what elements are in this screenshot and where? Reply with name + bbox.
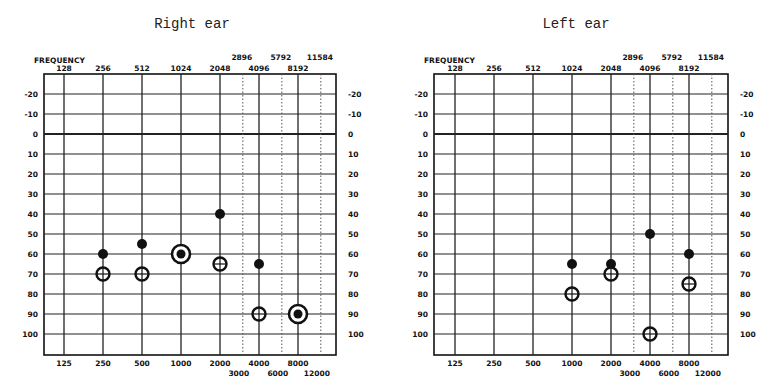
data-markers	[566, 229, 696, 341]
bottom-tick-label: 12000	[304, 369, 330, 378]
y-tick-label-right: 90	[348, 310, 358, 319]
y-tick-label-left: -10	[414, 110, 428, 119]
left-ear-panel: Left ear FREQUENCY2896579211584128256512…	[384, 0, 768, 392]
bottom-tick-label: 4000	[640, 359, 661, 368]
y-tick-label-right: 30	[740, 190, 750, 199]
top-tick-label: 5792	[661, 53, 682, 62]
y-tick-label-left: 70	[28, 270, 38, 279]
y-tick-label-left: 40	[28, 210, 38, 219]
y-tick-label-left: -10	[24, 110, 38, 119]
axis-labels: FREQUENCY2896579211584128256512102420484…	[22, 53, 363, 378]
bottom-tick-label: 8000	[679, 359, 700, 368]
y-tick-label-right: 0	[348, 130, 353, 139]
top-tick-label: 11584	[698, 53, 724, 62]
top-tick-label: 2896	[231, 53, 252, 62]
top-tick-label: 4096	[640, 64, 661, 73]
bottom-tick-label: 6000	[267, 369, 288, 378]
y-tick-label-right: 70	[740, 270, 750, 279]
combined-dot-marker	[294, 310, 303, 319]
y-tick-label-right: 30	[348, 190, 358, 199]
y-tick-label-left: 80	[418, 290, 428, 299]
top-tick-label: 5792	[270, 53, 291, 62]
y-tick-label-right: 50	[348, 230, 358, 239]
top-tick-label: 11584	[307, 53, 333, 62]
y-tick-label-left: 20	[418, 170, 428, 179]
y-tick-label-left: 0	[423, 130, 428, 139]
top-tick-label: 8192	[679, 64, 700, 73]
bottom-tick-label: 12000	[695, 369, 721, 378]
y-tick-label-left: 70	[418, 270, 428, 279]
y-tick-label-left: 40	[418, 210, 428, 219]
right-ear-panel: Right ear FREQUENCY289657921158412825651…	[0, 0, 384, 392]
bottom-tick-label: 8000	[288, 359, 309, 368]
y-tick-label-left: 50	[28, 230, 38, 239]
top-tick-label: 1024	[562, 64, 583, 73]
y-tick-label-left: 100	[22, 330, 38, 339]
y-tick-label-right: 50	[740, 230, 750, 239]
y-tick-label-right: 100	[740, 330, 756, 339]
y-tick-label-right: -10	[740, 110, 754, 119]
y-tick-label-right: 20	[348, 170, 358, 179]
y-tick-label-right: 80	[348, 290, 358, 299]
y-tick-label-left: 30	[418, 190, 428, 199]
right-ear-audiogram: FREQUENCY2896579211584128256512102420484…	[0, 0, 384, 392]
bottom-tick-label: 4000	[249, 359, 270, 368]
top-tick-label: 2896	[622, 53, 643, 62]
y-tick-label-left: 80	[28, 290, 38, 299]
y-tick-label-left: 100	[412, 330, 428, 339]
bottom-tick-label: 2000	[210, 359, 231, 368]
bottom-tick-label: 3000	[619, 369, 640, 378]
y-tick-label-right: 10	[740, 150, 750, 159]
bottom-tick-label: 2000	[601, 359, 622, 368]
y-tick-label-left: 30	[28, 190, 38, 199]
top-tick-label: 256	[95, 64, 111, 73]
y-tick-label-right: -10	[348, 110, 362, 119]
y-tick-label-right: 40	[740, 210, 750, 219]
y-tick-label-left: 60	[418, 250, 428, 259]
y-tick-label-right: 80	[740, 290, 750, 299]
top-tick-label: 256	[486, 64, 502, 73]
y-tick-label-right: 100	[348, 330, 364, 339]
top-tick-label: 8192	[288, 64, 309, 73]
y-tick-label-left: 0	[33, 130, 38, 139]
bottom-tick-label: 125	[56, 359, 72, 368]
y-tick-label-left: 90	[418, 310, 428, 319]
top-tick-label: 2048	[210, 64, 231, 73]
filled-circle-marker	[215, 209, 225, 219]
y-tick-label-left: -20	[24, 90, 38, 99]
filled-circle-marker	[645, 229, 655, 239]
bottom-tick-label: 250	[486, 359, 502, 368]
bottom-tick-label: 6000	[658, 369, 679, 378]
top-tick-label: 4096	[249, 64, 270, 73]
top-tick-label: 512	[525, 64, 541, 73]
y-tick-label-left: 50	[418, 230, 428, 239]
bottom-tick-label: 250	[95, 359, 111, 368]
top-tick-label: 2048	[601, 64, 622, 73]
filled-circle-marker	[684, 249, 694, 259]
left-ear-audiogram: FREQUENCY2896579211584128256512102420484…	[384, 0, 768, 392]
bottom-tick-label: 500	[525, 359, 541, 368]
y-tick-label-right: 10	[348, 150, 358, 159]
y-tick-label-right: 60	[740, 250, 750, 259]
filled-circle-marker	[567, 259, 577, 269]
bottom-tick-label: 500	[134, 359, 150, 368]
combined-dot-marker	[177, 250, 186, 259]
bottom-tick-label: 125	[447, 359, 463, 368]
y-tick-label-right: 0	[740, 130, 745, 139]
y-tick-label-left: 10	[28, 150, 38, 159]
bottom-tick-label: 3000	[228, 369, 249, 378]
y-tick-label-left: 90	[28, 310, 38, 319]
y-tick-label-right: 20	[740, 170, 750, 179]
axis-labels: FREQUENCY2896579211584128256512102420484…	[412, 53, 755, 378]
y-tick-label-right: 90	[740, 310, 750, 319]
filled-circle-marker	[98, 249, 108, 259]
top-tick-label: 128	[447, 64, 463, 73]
bottom-tick-label: 1000	[171, 359, 192, 368]
grid	[434, 74, 728, 355]
filled-circle-marker	[254, 259, 264, 269]
data-markers	[97, 209, 308, 323]
top-tick-label: 512	[134, 64, 150, 73]
y-tick-label-left: 20	[28, 170, 38, 179]
y-tick-label-right: 60	[348, 250, 358, 259]
y-tick-label-left: 10	[418, 150, 428, 159]
